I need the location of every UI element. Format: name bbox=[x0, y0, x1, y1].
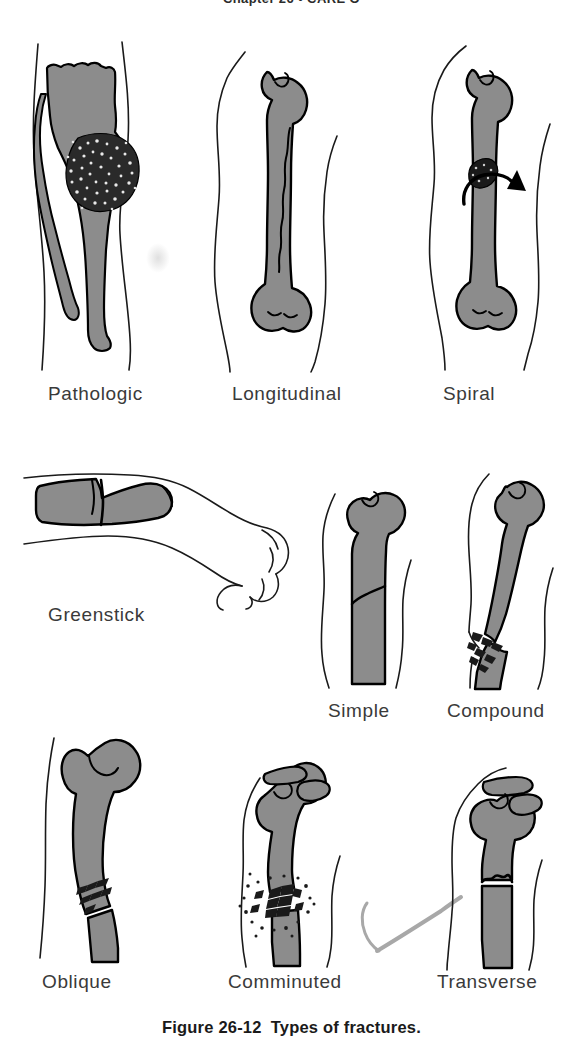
bone-fragment-top-transverse bbox=[483, 777, 533, 795]
bone-greenstick bbox=[36, 479, 172, 525]
label-greenstick: Greenstick bbox=[48, 604, 145, 626]
label-longitudinal: Longitudinal bbox=[232, 383, 342, 405]
bone-fragment-right-transverse bbox=[509, 795, 542, 815]
bone-simple bbox=[347, 492, 405, 684]
panel-pathologic bbox=[22, 42, 172, 372]
panel-spiral bbox=[404, 44, 566, 374]
figure-caption-text: Types of fractures. bbox=[271, 1018, 421, 1036]
label-oblique: Oblique bbox=[42, 971, 112, 993]
label-simple: Simple bbox=[328, 700, 390, 722]
panel-transverse bbox=[432, 760, 582, 970]
bone-spiral bbox=[456, 70, 526, 330]
bone-oblique bbox=[62, 740, 141, 962]
figure-page: Chapter 26 • CARE O bbox=[0, 0, 583, 1058]
panel-longitudinal bbox=[205, 50, 345, 372]
label-transverse: Transverse bbox=[437, 971, 537, 993]
bone-fragment-top-comminuted bbox=[264, 767, 307, 785]
label-spiral: Spiral bbox=[443, 383, 495, 405]
label-compound: Compound bbox=[447, 700, 545, 722]
panel-compound bbox=[433, 472, 581, 690]
label-pathologic: Pathologic bbox=[48, 383, 143, 405]
running-head: Chapter 26 • CARE O bbox=[0, 0, 583, 6]
panel-greenstick bbox=[22, 452, 304, 610]
panel-oblique bbox=[32, 728, 180, 964]
tumor-mass-pathologic bbox=[66, 134, 139, 212]
skin-outline-oblique bbox=[40, 738, 54, 958]
bone-compound bbox=[467, 482, 544, 689]
panel-simple bbox=[313, 492, 441, 690]
figure-number: Figure 26-12 bbox=[162, 1018, 262, 1036]
bone-fragment-right-comminuted bbox=[297, 781, 330, 801]
label-comminuted: Comminuted bbox=[228, 971, 342, 993]
figure-caption: Figure 26-12 Types of fractures. bbox=[0, 1018, 583, 1037]
bone-longitudinal bbox=[251, 72, 311, 332]
bone-transverse bbox=[470, 777, 541, 968]
